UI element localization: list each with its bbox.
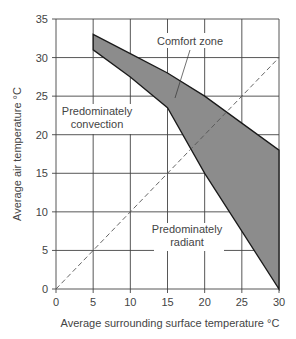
x-tick-label: 30 (273, 296, 285, 308)
convection-label-line1: Predominately (62, 105, 133, 117)
x-tick-label: 15 (161, 296, 173, 308)
comfort-zone-label: Comfort zone (157, 35, 223, 47)
x-axis-label: Average surrounding surface temperature … (61, 317, 280, 329)
y-tick-label: 30 (36, 52, 48, 64)
x-tick-label: 0 (53, 296, 59, 308)
x-tick-label: 20 (199, 296, 211, 308)
x-tick-label: 10 (124, 296, 136, 308)
convection-label-line2: convection (71, 118, 124, 130)
y-tick-label: 5 (42, 244, 48, 256)
radiant-label-line1: Predominately (152, 223, 223, 235)
radiant-label-line2: radiant (170, 236, 204, 248)
y-tick-label: 35 (36, 13, 48, 25)
comfort-zone-chart: 05101520253005101520253035 Comfort zone … (0, 0, 296, 339)
x-tick-label: 25 (236, 296, 248, 308)
y-tick-label: 20 (36, 129, 48, 141)
y-tick-label: 25 (36, 90, 48, 102)
y-tick-label: 15 (36, 167, 48, 179)
y-axis-label: Average air temperature °C (11, 87, 23, 221)
y-tick-label: 0 (42, 283, 48, 295)
y-tick-label: 10 (36, 206, 48, 218)
x-tick-label: 5 (90, 296, 96, 308)
